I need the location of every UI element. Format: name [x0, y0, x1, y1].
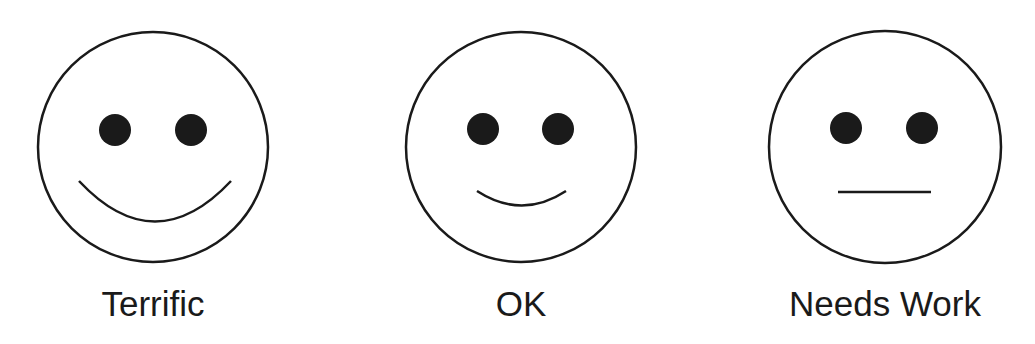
face-ok[interactable]	[406, 32, 636, 262]
left-eye-icon	[467, 113, 499, 145]
face-outline	[406, 32, 636, 262]
left-eye-icon	[830, 112, 862, 144]
right-eye-icon	[175, 114, 207, 146]
label-needs-work: Needs Work	[735, 284, 1035, 324]
face-outline	[38, 32, 268, 262]
label-ok: OK	[371, 284, 671, 324]
face-needs-work[interactable]	[769, 31, 1001, 263]
label-terrific: Terrific	[3, 284, 303, 324]
right-eye-icon	[906, 112, 938, 144]
face-terrific[interactable]	[38, 32, 268, 262]
right-eye-icon	[542, 113, 574, 145]
face-outline	[769, 31, 1001, 263]
left-eye-icon	[99, 114, 131, 146]
